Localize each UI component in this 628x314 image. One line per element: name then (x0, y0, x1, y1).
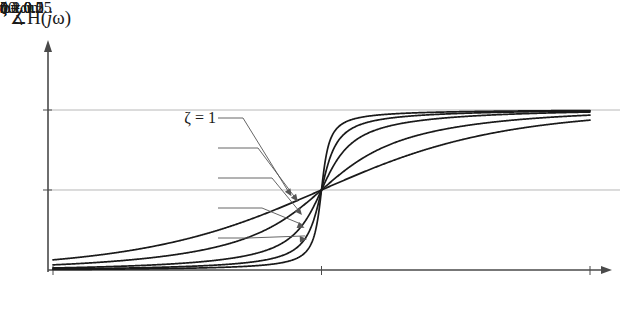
leader-arrowhead-zeta-0p5 (291, 194, 298, 202)
y-axis-arrowhead (44, 40, 52, 52)
x-axis-arrowhead (601, 266, 612, 274)
phase-plot (0, 0, 628, 314)
x-tick-right-unit: ω (16, 0, 27, 16)
legend-leader-lines (218, 118, 307, 242)
x-axis-label: ω (0, 0, 11, 16)
leader-line-zeta-1 (218, 118, 289, 193)
figure-container: ∡H(jω) ζ = 1 ζ = 0.5 ζ = 0.2 ζ = 0.1 ζ =… (0, 0, 628, 314)
leader-line-zeta-0p5 (218, 148, 296, 199)
axes (44, 40, 612, 274)
leader-line-zeta-0p2 (218, 178, 300, 212)
y-axis-title-tail: ω) (52, 7, 71, 28)
legend-label-zeta-1: ζ = 1 (90, 110, 216, 126)
x-tick-right-sub: n (27, 0, 35, 16)
